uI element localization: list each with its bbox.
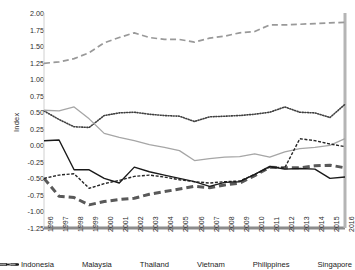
x-tick-label: 2011 xyxy=(273,217,280,232)
legend-swatch-icon xyxy=(119,262,138,269)
x-tick-label: 2012 xyxy=(288,216,295,232)
x-tick-label: 2010 xyxy=(258,216,265,232)
legend-label: Vietnam xyxy=(197,261,225,269)
x-tick-label: 1997 xyxy=(62,216,69,232)
legend-item-vietnam[interactable]: Vietnam xyxy=(176,261,225,269)
x-tick-label: 2014 xyxy=(318,216,325,232)
x-tick-label: 2009 xyxy=(243,216,250,232)
x-tick-label: 2003 xyxy=(152,216,159,232)
legend-swatch-icon xyxy=(296,262,315,269)
x-tick-label: 1998 xyxy=(77,216,84,232)
legend-label: Malaysia xyxy=(82,261,112,269)
series-line-philippines xyxy=(44,140,345,186)
x-tick-label: 2001 xyxy=(122,216,129,232)
legend-label: Thailand xyxy=(140,261,169,269)
series-line-singapore xyxy=(44,22,345,63)
x-tick-label: 2013 xyxy=(303,216,310,232)
legend-item-thailand[interactable]: Thailand xyxy=(119,261,169,269)
x-tick-label: 2000 xyxy=(107,216,114,232)
x-tick-label: 1999 xyxy=(92,216,99,232)
x-tick-label: 2004 xyxy=(167,216,174,232)
legend-swatch-icon xyxy=(176,262,195,269)
x-tick-label: 2016 xyxy=(348,216,355,232)
series-line-malaysia xyxy=(44,104,345,127)
x-tick-label: 2005 xyxy=(182,216,189,232)
x-tick-label: 2007 xyxy=(213,216,220,232)
chart-legend: IndonesiaMalaysiaThailandVietnamPhilippi… xyxy=(0,261,352,269)
legend-label: Indonesia xyxy=(21,261,54,269)
x-tick-label: 2008 xyxy=(228,216,235,232)
legend-label: Philippines xyxy=(253,261,290,269)
x-tick-label: 2002 xyxy=(137,216,144,232)
series-line-thailand xyxy=(44,107,345,161)
legend-swatch-icon xyxy=(61,262,80,269)
series-line-vietnam xyxy=(44,139,345,189)
legend-item-singapore[interactable]: Singapore xyxy=(296,261,352,269)
legend-item-malaysia[interactable]: Malaysia xyxy=(61,261,112,269)
x-tick-label: 2006 xyxy=(198,216,205,232)
series-line-indonesia xyxy=(44,165,345,205)
legend-label: Singapore xyxy=(317,261,352,269)
legend-item-philippines[interactable]: Philippines xyxy=(232,261,290,269)
legend-swatch-icon xyxy=(232,262,251,269)
x-tick-label: 2015 xyxy=(333,216,340,232)
x-tick-label: 1996 xyxy=(47,216,54,232)
